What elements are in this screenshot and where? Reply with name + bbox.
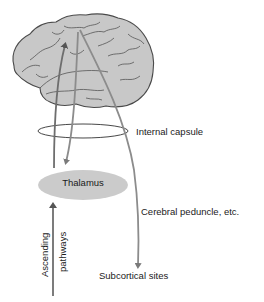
ascending-label: Ascending — [40, 233, 50, 277]
internal-capsule-ring — [38, 124, 128, 138]
subcortical-sites-label: Subcortical sites — [99, 271, 168, 281]
cerebral-peduncle-label: Cerebral peduncle, etc. — [141, 207, 239, 217]
brain — [13, 14, 154, 107]
thalamus-label: Thalamus — [38, 178, 128, 188]
internal-capsule-label: Internal capsule — [136, 127, 203, 137]
pathways-label: pathways — [58, 232, 68, 272]
